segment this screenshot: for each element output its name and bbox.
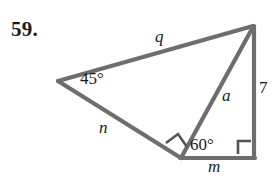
side-label-m: m: [208, 158, 220, 175]
triangle-diagram-svg: [0, 0, 280, 181]
right-angle-mark-bottom-right: [238, 141, 251, 154]
angle-label-60: 60°: [190, 136, 214, 153]
side-label-n: n: [99, 119, 108, 136]
side-label-a: a: [222, 87, 231, 104]
figure-canvas: 59. q 45° n a 7 60° m: [0, 0, 280, 181]
side-label-q: q: [155, 28, 164, 45]
right-angle-mark-bottom-middle: [166, 134, 187, 147]
side-label-seven: 7: [259, 79, 268, 96]
problem-number: 59.: [11, 19, 38, 40]
angle-label-45: 45°: [80, 70, 104, 87]
segment-n: [58, 81, 181, 158]
